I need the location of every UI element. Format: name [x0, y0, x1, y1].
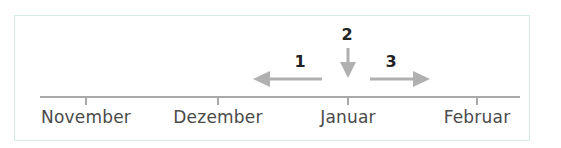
arrow-label-1: 1 [294, 52, 305, 71]
arrows-layer [0, 0, 561, 148]
arrow-down-icon [340, 48, 356, 78]
arrow-right-icon [370, 71, 430, 87]
arrow-label-3: 3 [385, 52, 396, 71]
arrow-left-icon [253, 71, 322, 87]
arrow-label-2: 2 [341, 25, 352, 44]
